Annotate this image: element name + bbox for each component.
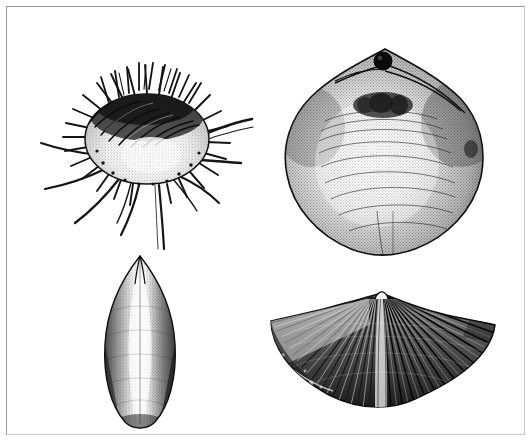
figure-elongate-lingulid: [87, 252, 197, 432]
lingulid-surface-group: [87, 252, 197, 434]
smooth-terebratulid-drawing: [265, 35, 505, 275]
illustration-plate: [0, 0, 531, 442]
elongate-lingulid-drawing: [87, 252, 197, 432]
foramen-highlight: [378, 56, 383, 61]
shell-pit: [464, 140, 478, 158]
ribbed-spiriferid-drawing: [257, 285, 507, 425]
figure-spinose-productid: [27, 27, 257, 257]
figure-smooth-terebratulid: [265, 35, 505, 275]
spiriferid-beak: [375, 292, 388, 299]
figure-ribbed-spiriferid: [257, 285, 507, 425]
venter-stipple: [121, 137, 181, 173]
terebratulid-surface-group: [265, 35, 505, 275]
spinose-productid-drawing: [27, 27, 257, 257]
plate-frame-border: [6, 6, 525, 435]
pedicle-foramen: [374, 52, 392, 70]
spiriferid-surface-group: [257, 285, 507, 425]
